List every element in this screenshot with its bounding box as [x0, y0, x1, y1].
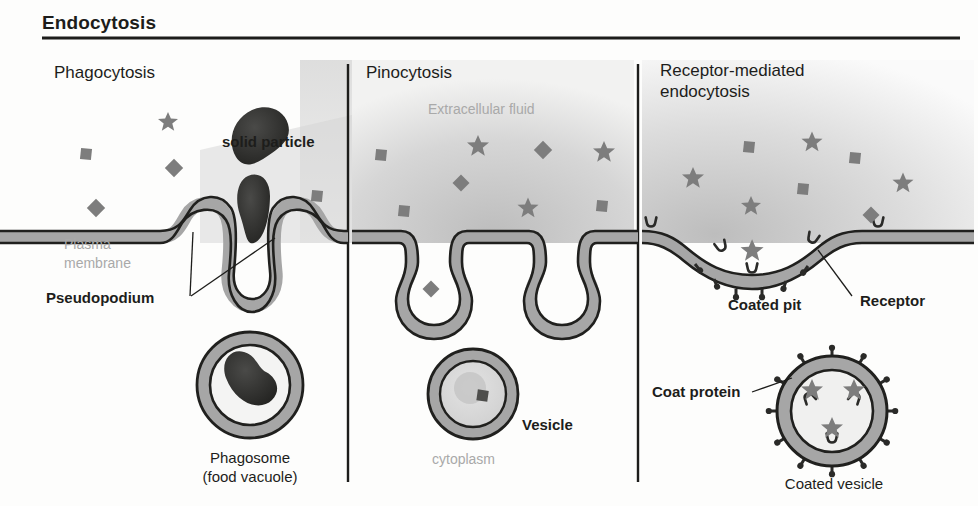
label-vesicle: Vesicle	[522, 416, 573, 433]
figure-title: Endocytosis	[42, 12, 156, 34]
particle-square	[743, 141, 755, 153]
panel-heading-phagocytosis: Phagocytosis	[54, 62, 155, 83]
particle-square	[311, 190, 323, 202]
receptor-leader-line	[818, 250, 852, 296]
particle-diamond	[165, 159, 183, 177]
panel-heading-receptor-mediated-line2: endocytosis	[660, 81, 750, 102]
label-coated-vesicle: Coated vesicle	[762, 474, 906, 493]
phagosome	[197, 332, 303, 438]
particle-diamond	[87, 199, 105, 217]
label-coated-pit: Coated pit	[728, 296, 801, 313]
particle-square	[398, 205, 410, 217]
plasma-membrane-pinocytosis	[352, 231, 638, 339]
receptor-mediated-illustration	[642, 217, 974, 477]
label-plasma-membrane-line2: membrane	[64, 254, 131, 273]
label-cytoplasm: cytoplasm	[432, 450, 495, 469]
label-phagosome-line1: Phagosome	[180, 448, 320, 467]
particle-square	[849, 152, 861, 164]
label-phagosome-line2: (food vacuole)	[170, 467, 330, 486]
pinocytic-vesicle	[428, 349, 518, 439]
particle-square	[797, 183, 809, 195]
label-coat-protein: Coat protein	[652, 383, 740, 400]
particle-diamond	[423, 281, 440, 298]
particle-square	[596, 200, 608, 212]
label-plasma-membrane-line1: Plasma	[64, 235, 111, 254]
figure-canvas: Endocytosis Phagocytosis Pinocytosis Rec…	[0, 0, 978, 506]
label-solid-particle: solid particle	[222, 133, 315, 150]
label-receptor: Receptor	[860, 292, 925, 309]
label-extracellular-fluid: Extracellular fluid	[428, 100, 535, 119]
coated-vesicle	[766, 345, 899, 478]
panel-heading-receptor-mediated-line1: Receptor-mediated	[660, 60, 805, 81]
label-pseudopodium: Pseudopodium	[46, 289, 154, 306]
particle-square	[80, 148, 92, 160]
particle-square	[375, 149, 387, 161]
pinocytosis-illustration	[352, 231, 638, 439]
panel-heading-pinocytosis: Pinocytosis	[366, 62, 452, 83]
particle-star	[158, 112, 178, 131]
